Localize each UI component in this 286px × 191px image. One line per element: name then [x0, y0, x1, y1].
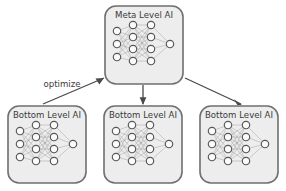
edge-label-optimize: optimize	[43, 79, 80, 89]
nn-node	[208, 153, 215, 160]
nn-node	[50, 157, 57, 164]
nn-node	[129, 33, 136, 40]
box-bottom-level-ai-center-title: Bottom Level AI	[109, 110, 177, 120]
nn-node	[147, 57, 154, 64]
nn-node	[50, 121, 57, 128]
diagram-svg: optimize Meta Level AI	[0, 0, 286, 191]
nn-node	[50, 133, 57, 140]
box-bottom-level-ai-right[interactable]: Bottom Level AI	[200, 106, 278, 183]
arrow-meta-right	[185, 78, 242, 105]
nn-node	[16, 127, 23, 134]
nn-node	[128, 133, 135, 140]
nn-node	[224, 145, 231, 152]
box-meta-level-ai[interactable]: Meta Level AI	[105, 6, 183, 84]
nn-node	[113, 27, 120, 34]
nn-node	[242, 145, 249, 152]
nn-node	[16, 140, 23, 147]
nn-node	[146, 133, 153, 140]
box-meta-level-ai-title: Meta Level AI	[115, 10, 173, 20]
nn-node	[50, 145, 57, 152]
nn-node	[112, 153, 119, 160]
nn-node	[128, 121, 135, 128]
nn-node	[16, 153, 23, 160]
box-bottom-level-ai-left[interactable]: Bottom Level AI	[8, 106, 86, 183]
box-bottom-level-ai-right-title: Bottom Level AI	[205, 110, 273, 120]
nn-node	[147, 33, 154, 40]
box-bottom-level-ai-left-title: Bottom Level AI	[13, 110, 81, 120]
arrow-meta-center	[140, 85, 147, 105]
nn-node	[129, 21, 136, 28]
nn-node	[224, 157, 231, 164]
nn-node	[129, 57, 136, 64]
nn-node	[165, 140, 172, 147]
nn-node	[146, 145, 153, 152]
box-bottom-level-ai-center[interactable]: Bottom Level AI	[104, 106, 182, 183]
nn-node	[32, 157, 39, 164]
nn-node	[112, 127, 119, 134]
nn-node	[146, 157, 153, 164]
nn-node	[147, 21, 154, 28]
nn-node	[128, 157, 135, 164]
nn-node	[261, 140, 268, 147]
nn-node	[208, 127, 215, 134]
nn-node	[113, 40, 120, 47]
nn-node	[166, 40, 173, 47]
nn-node	[128, 145, 135, 152]
nn-node	[32, 121, 39, 128]
nn-node	[208, 140, 215, 147]
nn-node	[69, 140, 76, 147]
nn-node	[146, 121, 153, 128]
nn-node	[32, 133, 39, 140]
nn-node	[32, 145, 39, 152]
nn-node	[113, 53, 120, 60]
nn-node	[242, 133, 249, 140]
nn-node	[224, 133, 231, 140]
nn-node	[242, 157, 249, 164]
nn-node	[224, 121, 231, 128]
diagram-canvas: optimize Meta Level AI	[0, 0, 286, 191]
nn-node	[147, 45, 154, 52]
nn-node	[112, 140, 119, 147]
nn-node	[129, 45, 136, 52]
nn-node	[242, 121, 249, 128]
